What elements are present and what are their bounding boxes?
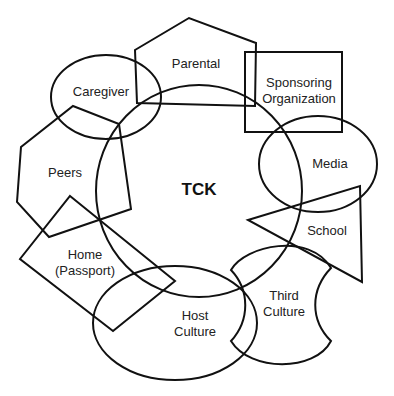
media-label: Media <box>312 156 348 171</box>
sponsoring-label-line2: Organization <box>262 91 336 106</box>
host-culture-label-line1: Host <box>182 308 209 323</box>
sponsoring-label-line1: Sponsoring <box>266 75 332 90</box>
tck-label: TCK <box>182 180 218 199</box>
third-culture-label-line2: Culture <box>263 304 305 319</box>
caregiver-label: Caregiver <box>73 84 130 99</box>
peers-label: Peers <box>48 165 82 180</box>
parental-label: Parental <box>172 56 221 71</box>
host-culture-label-line2: Culture <box>174 324 216 339</box>
third-culture-label-line1: Third <box>269 288 299 303</box>
school-label: School <box>307 223 347 238</box>
host-culture-ellipse <box>93 266 257 380</box>
tck-influence-diagram: TCK Caregiver Parental Sponsoring Organi… <box>0 0 394 396</box>
home-label-line2: (Passport) <box>55 263 115 278</box>
home-label-line1: Home <box>68 247 103 262</box>
